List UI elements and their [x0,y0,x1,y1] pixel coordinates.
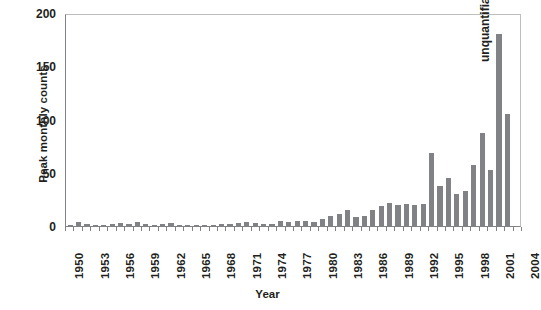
bar-slot [201,15,209,226]
bar-1989 [395,205,400,226]
bar-slot [226,15,234,226]
bar-slot [234,15,242,226]
bar-1967 [211,225,216,226]
bar-1962 [168,223,173,226]
bar-slot [419,15,427,226]
x-tick-mark [133,227,134,231]
x-tick-mark [487,227,488,231]
x-axis-title: Year [0,288,535,300]
x-tick-mark [470,227,471,231]
x-tick-mark [259,227,260,231]
x-tick-mark [166,227,167,231]
x-tick-mark [318,227,319,231]
bar-1971 [244,222,249,226]
bar-1988 [387,203,392,226]
x-tick-mark [521,227,522,231]
bar-1974 [269,224,274,226]
bar-slot [411,15,419,226]
bar-1998 [471,165,476,226]
bar-slot [158,15,166,226]
y-tick-100: 100 [22,116,56,126]
x-tick-mark [200,227,201,231]
bar-slot [385,15,393,226]
bar-slot [150,15,158,226]
bar-1953 [93,225,98,226]
x-tick-mark [411,227,412,231]
bar-slot [217,15,225,226]
bar-slot [209,15,217,226]
x-axis-tick-labels: 1950195319561959196219651968197119741977… [65,233,521,285]
bar-1994 [437,186,442,226]
bar-slot [503,15,511,226]
bar-2002 [505,114,510,226]
bar-1997 [463,191,468,226]
bar-1951 [76,222,81,226]
bar-slot [335,15,343,226]
x-tick-mark [116,227,117,231]
x-tick-1959: 1959 [149,253,161,279]
x-tick-mark [192,227,193,231]
x-tick-mark [175,227,176,231]
x-tick-1950: 1950 [73,253,85,279]
x-tick-1983: 1983 [352,253,364,279]
bar-slot [369,15,377,226]
bar-slot [74,15,82,226]
x-tick-mark [310,227,311,231]
bar-slot [352,15,360,226]
plot-area [65,14,521,227]
bar-slot [66,15,74,226]
bar-slot [268,15,276,226]
x-tick-1995: 1995 [453,253,465,279]
x-tick-mark [107,227,108,231]
bar-slot [310,15,318,226]
x-tick-mark [428,227,429,231]
x-tick-mark [513,227,514,231]
bar-slot [293,15,301,226]
bar-slot [461,15,469,226]
bar-1991 [412,205,417,226]
bar-slot [285,15,293,226]
x-tick-mark [251,227,252,231]
bar-1978 [303,221,308,226]
bar-series [66,15,520,226]
x-tick-mark [149,227,150,231]
bar-1956 [118,223,123,226]
x-tick-1971: 1971 [251,253,263,279]
bar-1983 [345,210,350,226]
x-tick-mark [225,227,226,231]
bar-1969 [227,224,232,226]
bar-1965 [194,225,199,226]
bar-slot [184,15,192,226]
bar-1963 [177,225,182,226]
bar-1960 [152,225,157,226]
bar-1977 [295,221,300,226]
x-tick-1962: 1962 [175,253,187,279]
bar-1954 [101,225,106,226]
x-tick-1980: 1980 [327,253,339,279]
bar-slot [470,15,478,226]
bar-1964 [185,225,190,226]
x-tick-mark [335,227,336,231]
bar-slot [377,15,385,226]
x-tick-mark [344,227,345,231]
x-tick-mark [394,227,395,231]
x-tick-mark [403,227,404,231]
bar-1973 [261,224,266,226]
x-tick-mark [209,227,210,231]
x-tick-mark [301,227,302,231]
x-tick-1989: 1989 [403,253,415,279]
bar-slot [318,15,326,226]
x-tick-mark [158,227,159,231]
bar-slot [175,15,183,226]
bar-slot [343,15,351,226]
bar-slot [360,15,368,226]
x-tick-1956: 1956 [124,253,136,279]
x-tick-mark [327,227,328,231]
bar-1975 [278,221,283,226]
bar-1972 [253,223,258,226]
bar-1999 [480,133,485,226]
x-tick-mark [377,227,378,231]
bar-1985 [362,216,367,226]
bar-1979 [311,222,316,226]
